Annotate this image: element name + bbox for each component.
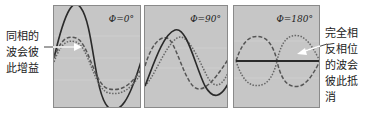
out-of-phase-label: 完全相 反相位 的波会 彼此抵 消 — [325, 26, 358, 106]
out-of-phase-label-line-2: 反相位 — [325, 42, 358, 58]
phase-label-180: Φ=180° — [276, 14, 313, 24]
phase-label-90: Φ=90° — [190, 14, 221, 24]
out-of-phase-label-line-3: 的波会 — [325, 58, 358, 74]
in-phase-label: 同相的 波会彼 此增益 — [6, 29, 39, 77]
in-phase-label-line-3: 此增益 — [6, 61, 39, 77]
phase-label-0: Φ=0° — [109, 14, 134, 24]
out-of-phase-label-line-4: 彼此抵 — [325, 74, 358, 90]
panel-phase-0: Φ=0° — [53, 5, 141, 108]
out-of-phase-label-line-1: 完全相 — [325, 26, 358, 42]
out-of-phase-label-line-5: 消 — [325, 90, 358, 106]
panel-phase-90: Φ=90° — [144, 5, 228, 108]
panel-phase-180: Φ=180° — [233, 5, 320, 108]
in-phase-label-line-1: 同相的 — [6, 29, 39, 45]
in-phase-label-line-2: 波会彼 — [6, 45, 39, 61]
